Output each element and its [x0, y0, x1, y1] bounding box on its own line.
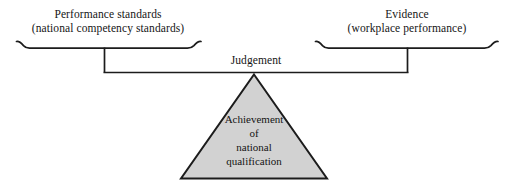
right-label-line-2: (workplace performance)	[316, 22, 498, 36]
fulcrum-label-line-1: Achievement	[183, 113, 325, 127]
left-label: Performance standards (national competen…	[16, 8, 200, 35]
right-label: Evidence (workplace performance)	[316, 8, 498, 35]
fulcrum-label-line-3: national	[183, 141, 325, 155]
beam-label: Judgement	[196, 54, 316, 68]
right-label-line-1: Evidence	[316, 8, 498, 22]
balance-diagram: Performance standards (national competen…	[0, 0, 513, 192]
right-bracket-line	[316, 41, 499, 48]
left-label-line-1: Performance standards	[16, 8, 200, 22]
fulcrum-label: Achievement of national qualification	[183, 113, 325, 168]
fulcrum-label-line-2: of	[183, 127, 325, 141]
left-bracket-line	[17, 41, 202, 48]
fulcrum-label-line-4: qualification	[183, 155, 325, 169]
left-label-line-2: (national competency standards)	[16, 22, 200, 36]
